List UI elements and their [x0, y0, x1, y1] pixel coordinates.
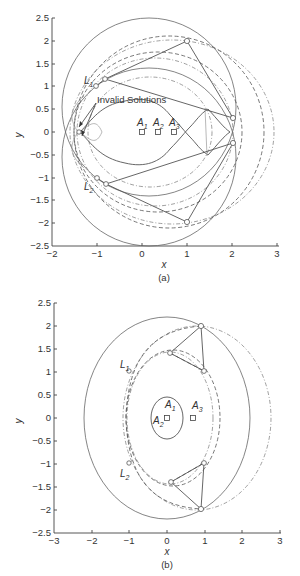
x-tick-label: −2 — [47, 248, 58, 259]
y-tick-label: −0.5 — [30, 149, 49, 160]
x-axis-label: x — [164, 546, 171, 557]
y-tick-label: 0.5 — [38, 389, 51, 400]
y-ticks: 2.5 2 1.5 1 0.5 0 −0.5 −1 −1.5 −2 −2.5 — [32, 297, 57, 538]
anchor-a1 — [140, 130, 145, 135]
label-a2: A2 — [152, 415, 164, 428]
anchor-a1-a2 — [165, 416, 170, 421]
x-tick-label: 2 — [229, 248, 234, 259]
figure: 2.5 2 1.5 1 0.5 0 −0.5 −1 −1.5 −2 −2.5 −… — [0, 0, 300, 576]
x-tick-label: −1 — [124, 535, 135, 546]
label-l2: L2 — [120, 468, 130, 481]
x-tick-label: 1 — [184, 248, 189, 259]
y-tick-label: 1.5 — [38, 343, 51, 354]
x-tick-label: 2 — [239, 535, 244, 546]
y-tick-label: 0 — [44, 126, 49, 137]
y-tick-label: 1 — [46, 366, 51, 377]
panel-b: 2.5 2 1.5 1 0.5 0 −0.5 −1 −1.5 −2 −2.5 −… — [13, 297, 283, 570]
y-tick-label: 0.5 — [36, 103, 49, 114]
y-tick-label: 2 — [44, 35, 49, 46]
anchor-a2 — [156, 130, 161, 135]
x-ticks: −3 −2 −1 0 1 2 3 — [49, 530, 283, 546]
x-tick-label: 0 — [139, 248, 144, 259]
x-axis-label: x — [161, 259, 168, 270]
x-tick-label: −2 — [87, 535, 98, 546]
y-tick-label: −1 — [38, 172, 49, 183]
caption-b: (b) — [161, 559, 173, 570]
invalid-solutions-label: Invalid Solutions — [97, 94, 166, 105]
anchors-a — [140, 130, 177, 135]
y-tick-label: −1 — [40, 458, 51, 469]
x-tick-label: −3 — [49, 535, 60, 546]
y-axis-label: y — [13, 418, 24, 425]
y-tick-label: 2.5 — [38, 297, 51, 308]
y-tick-label: 1.5 — [36, 58, 49, 69]
x-tick-label: 1 — [202, 535, 207, 546]
label-a1: A1 — [164, 399, 176, 412]
y-tick-label: −1.5 — [30, 194, 49, 205]
label-a1: A1 — [136, 117, 148, 130]
panel-a: 2.5 2 1.5 1 0.5 0 −0.5 −1 −1.5 −2 −2.5 −… — [13, 12, 280, 283]
label-a2: A2 — [152, 117, 164, 130]
y-tick-label: 0 — [46, 412, 51, 423]
y-tick-label: −2 — [40, 504, 51, 515]
anchor-a3 — [191, 416, 196, 421]
caption-a: (a) — [158, 272, 170, 283]
x-ticks: −2 −1 0 1 2 3 — [47, 243, 280, 259]
y-tick-label: −0.5 — [32, 435, 51, 446]
label-a3: A3 — [168, 117, 180, 130]
workspace-curves-b — [84, 317, 271, 519]
label-l2: L2 — [84, 181, 94, 194]
invalid-solutions-arrows — [72, 96, 96, 168]
y-tick-label: −2 — [38, 217, 49, 228]
label-a3: A3 — [191, 400, 203, 413]
y-tick-label: 2 — [46, 320, 51, 331]
x-tick-label: −1 — [92, 248, 103, 259]
y-tick-label: −1.5 — [32, 481, 51, 492]
anchor-a3 — [172, 130, 177, 135]
workspace-curves-a — [62, 18, 274, 246]
x-tick-label: 3 — [274, 248, 279, 259]
y-ticks: 2.5 2 1.5 1 0.5 0 −0.5 −1 −1.5 −2 −2.5 — [30, 12, 55, 251]
x-tick-label: 0 — [164, 535, 169, 546]
y-tick-label: 1 — [44, 80, 49, 91]
y-tick-label: 2.5 — [36, 12, 49, 23]
label-l1: L1 — [120, 359, 130, 372]
anchors-b — [165, 416, 196, 421]
x-tick-label: 3 — [277, 535, 282, 546]
y-axis-label: y — [13, 132, 24, 139]
